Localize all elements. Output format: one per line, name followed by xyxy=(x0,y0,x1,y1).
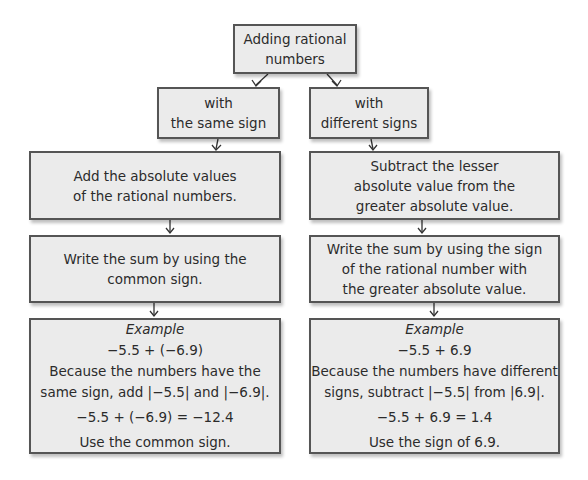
same-sign-step1-line-1: Add the absolute values xyxy=(73,166,236,186)
different-signs-header-line-2: different signs xyxy=(321,113,418,133)
arrow-root-to-different xyxy=(327,74,337,85)
same-sign-example-note: Use the common sign. xyxy=(79,432,230,453)
different-signs-header-box: with different signs xyxy=(309,87,429,139)
different-signs-step2-line-2: of the rational number with xyxy=(342,259,527,279)
different-signs-step2-box: Write the sum by using the sign of the r… xyxy=(309,235,560,303)
different-signs-example-expression: −5.5 + 6.9 xyxy=(397,340,471,361)
different-signs-step1-box: Subtract the lesser absolute value from … xyxy=(309,151,560,220)
same-sign-example-label: Example xyxy=(126,319,185,340)
root-line-2: numbers xyxy=(265,49,325,69)
root-box: Adding rational numbers xyxy=(233,24,357,74)
same-sign-example-expression: −5.5 + (−6.9) xyxy=(107,340,203,361)
same-sign-example-box: Example −5.5 + (−6.9) Because the number… xyxy=(29,318,281,454)
same-sign-header-box: with the same sign xyxy=(157,87,280,139)
different-signs-step1-line-1: Subtract the lesser xyxy=(370,156,498,176)
different-signs-example-result: −5.5 + 6.9 = 1.4 xyxy=(377,407,493,428)
different-signs-example-box: Example −5.5 + 6.9 Because the numbers h… xyxy=(309,318,560,454)
same-sign-example-explanation-1: Because the numbers have the xyxy=(49,361,260,382)
same-sign-example-result: −5.5 + (−6.9) = −12.4 xyxy=(76,407,233,428)
different-signs-example-explanation-2: signs, subtract |−5.5| from |6.9|. xyxy=(324,382,545,403)
different-signs-step2-line-3: the greater absolute value. xyxy=(343,279,527,299)
same-sign-step2-line-1: Write the sum by using the xyxy=(63,249,246,269)
different-signs-example-label: Example xyxy=(405,319,464,340)
same-sign-example-explanation-2: same sign, add |−5.5| and |−6.9|. xyxy=(40,382,269,403)
same-sign-step2-line-2: common sign. xyxy=(107,269,202,289)
root-line-1: Adding rational xyxy=(243,29,346,49)
same-sign-step2-box: Write the sum by using the common sign. xyxy=(29,235,281,303)
different-signs-step1-line-2: absolute value from the xyxy=(354,176,515,196)
different-signs-example-explanation-1: Because the numbers have different xyxy=(311,361,558,382)
different-signs-header-line-1: with xyxy=(355,93,384,113)
same-sign-header-line-1: with xyxy=(204,93,233,113)
same-sign-step1-line-2: of the rational numbers. xyxy=(73,186,237,206)
different-signs-step1-line-3: greater absolute value. xyxy=(356,196,513,216)
same-sign-step1-box: Add the absolute values of the rational … xyxy=(29,151,281,220)
different-signs-example-note: Use the sign of 6.9. xyxy=(369,432,500,453)
same-sign-header-line-2: the same sign xyxy=(171,113,266,133)
different-signs-step2-line-1: Write the sum by using the sign xyxy=(327,239,542,259)
